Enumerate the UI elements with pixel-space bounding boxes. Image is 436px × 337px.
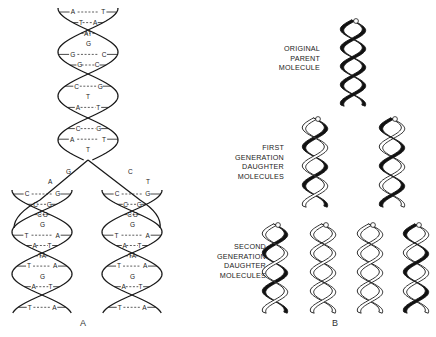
base-label: G	[40, 273, 45, 280]
base-label: T	[138, 283, 142, 290]
base-label: G	[55, 190, 60, 197]
fork-base-label: G	[66, 168, 71, 175]
second-gen-molecule-3	[357, 223, 382, 314]
base-label: G	[98, 83, 103, 90]
strand-end-cap	[324, 223, 329, 228]
base-label: A	[32, 283, 37, 290]
base-label: G	[47, 201, 52, 208]
label-second-generation: SECOND GENERATION DAUGHTER MOLECULES	[186, 242, 266, 280]
base-label: G	[70, 51, 75, 58]
base-label: G	[130, 273, 135, 280]
base-label: A	[122, 283, 127, 290]
strand-end-cap	[371, 223, 376, 228]
base-label: T	[86, 93, 90, 100]
left-daughter-helix: CGCGCGGTAATTATAGATTA	[12, 190, 72, 313]
base-label: T	[115, 232, 119, 239]
fork-base-label: C	[128, 168, 133, 175]
base-label: A	[93, 19, 98, 26]
base-label: T	[86, 146, 90, 153]
strand-end-cap	[276, 223, 281, 228]
right-daughter-helix: CGCGCGGTAATTATAGATTA	[102, 190, 162, 313]
second-gen-molecule-4	[403, 223, 428, 314]
base-label: A	[132, 252, 137, 259]
base-label: G	[137, 201, 142, 208]
label-first-generation: FIRST GENERATION DAUGHTER MOLECULES	[220, 143, 284, 181]
base-label: C	[33, 201, 38, 208]
base-label: C	[123, 201, 128, 208]
first-gen-molecule-1	[302, 117, 327, 208]
base-label: T	[102, 136, 106, 143]
base-label: T	[118, 304, 122, 311]
strand-end-cap	[354, 19, 359, 24]
base-label: G	[86, 40, 91, 47]
panel-a-replication-fork: ATTAATGGCGCCGTATCGATTGACTCGCGCGGTAATTATA…	[0, 0, 220, 337]
base-label: T	[96, 104, 100, 111]
base-label: A	[55, 232, 60, 239]
base-label: C	[74, 83, 79, 90]
base-label: A	[76, 104, 81, 111]
second-gen-molecule-2	[310, 223, 335, 314]
base-label: T	[48, 283, 52, 290]
base-label: T	[25, 232, 29, 239]
second-gen-molecule-1	[262, 223, 287, 314]
base-label: T	[28, 304, 32, 311]
strand-end-cap	[417, 223, 422, 228]
base-label: C	[95, 61, 100, 68]
base-label: C	[76, 125, 81, 132]
base-label: T	[101, 8, 105, 15]
panel-a-caption: A	[80, 318, 86, 328]
base-label: G	[145, 190, 150, 197]
base-label: A	[52, 304, 57, 311]
base-label: G	[77, 61, 82, 68]
base-label: A	[32, 242, 37, 249]
base-label: C	[25, 190, 30, 197]
base-label: T	[138, 242, 142, 249]
fork-base-label: T	[146, 178, 150, 185]
base-label: C	[127, 211, 132, 218]
base-label: G	[130, 221, 135, 228]
base-label: G	[43, 211, 48, 218]
base-label: G	[40, 221, 45, 228]
label-original-parent: ORIGINAL PARENT MOLECULE	[248, 44, 320, 73]
base-label: A	[145, 232, 150, 239]
base-label: A	[143, 262, 148, 269]
base-label: T	[79, 19, 83, 26]
panel-b-generations: ORIGINAL PARENT MOLECULE FIRST GENERATIO…	[220, 0, 436, 337]
base-label: C	[37, 211, 42, 218]
base-label: A	[53, 262, 58, 269]
base-label: C	[115, 190, 120, 197]
parent-helix: ATTAATGGCGCCGTATCGATT	[58, 8, 118, 160]
base-label: T	[88, 30, 92, 37]
base-label: G	[133, 211, 138, 218]
base-label: A	[122, 242, 127, 249]
fork-base-label: A	[48, 178, 53, 185]
base-label: T	[27, 262, 31, 269]
original-parent-molecule	[340, 19, 365, 107]
base-label: A	[142, 304, 147, 311]
panel-b-caption: B	[332, 318, 338, 328]
base-label: T	[48, 242, 52, 249]
strand-end-cap	[316, 117, 321, 122]
base-label: A	[71, 8, 76, 15]
base-label: T	[117, 262, 121, 269]
strand-end-cap	[393, 117, 398, 122]
base-label: G	[96, 125, 101, 132]
base-label: A	[42, 252, 47, 259]
base-label: C	[102, 51, 107, 58]
replication-fork-diagram: ATTAATGGCGCCGTATCGATTGACTCGCGCGGTAATTATA…	[0, 0, 220, 337]
first-gen-molecule-2	[379, 117, 404, 208]
base-label: A	[70, 136, 75, 143]
